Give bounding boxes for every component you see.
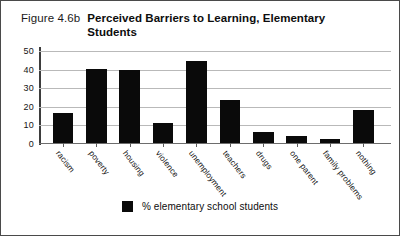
bar: [253, 132, 274, 143]
x-axis-tick: [196, 143, 197, 147]
chart-legend: % elementary school students: [1, 201, 399, 212]
legend-label: % elementary school students: [142, 201, 278, 212]
x-axis-tick: [297, 143, 298, 147]
x-axis-tick-label: housing: [121, 149, 146, 178]
x-axis-tick: [363, 143, 364, 147]
x-axis-tick: [263, 143, 264, 147]
x-axis-tick-label: nothing: [354, 149, 378, 177]
x-axis-tick: [330, 143, 331, 147]
bar: [286, 136, 307, 143]
y-axis-tick-label: 50: [24, 46, 34, 56]
bar: [86, 69, 107, 143]
x-axis-tick-label: teachers: [221, 149, 248, 180]
x-axis-labels: racismpovertyhousingviolenceunemployment…: [39, 149, 391, 199]
bar: [353, 110, 374, 143]
x-axis-tick-label: one parent: [287, 149, 319, 187]
figure-number: Figure 4.6b: [21, 11, 80, 25]
legend-swatch-icon: [122, 201, 133, 212]
x-axis-tick: [63, 143, 64, 147]
x-axis-tick: [163, 143, 164, 147]
bar-series: [39, 51, 391, 143]
bar: [119, 70, 140, 143]
y-axis-tick-label: 10: [24, 120, 34, 130]
figure-title-block: Figure 4.6b Perceived Barriers to Learni…: [21, 11, 327, 39]
y-axis-tick-label: 40: [24, 65, 34, 75]
x-axis-tick: [230, 143, 231, 147]
y-axis-tick-label: 30: [24, 83, 34, 93]
plot-area: 01020304050: [39, 51, 391, 144]
x-axis-tick-label: poverty: [87, 149, 111, 177]
y-axis-tick-label: 20: [24, 102, 34, 112]
figure-container: Figure 4.6b Perceived Barriers to Learni…: [0, 0, 400, 236]
bar: [220, 100, 241, 143]
bar: [53, 113, 74, 143]
x-axis-tick-label: racism: [54, 149, 76, 174]
page-title: Perceived Barriers to Learning, Elementa…: [87, 11, 327, 39]
gridline: [39, 144, 391, 145]
x-axis-tick: [96, 143, 97, 147]
x-axis-tick-label: drugs: [254, 149, 274, 171]
x-axis-tick: [130, 143, 131, 147]
x-axis-tick-label: violence: [154, 149, 180, 179]
bar: [153, 123, 174, 143]
bar: [186, 61, 207, 143]
y-axis-tick-label: 0: [29, 139, 34, 149]
